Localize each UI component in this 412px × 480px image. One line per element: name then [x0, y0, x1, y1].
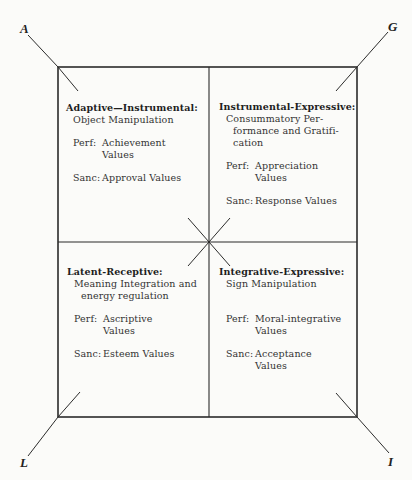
perf-value-line: Appreciation — [255, 160, 318, 172]
corner-label-g: G — [388, 19, 397, 35]
quadrant-title: Integrative-Expressive: — [219, 266, 344, 278]
sanc-label: Sanc: — [73, 172, 102, 184]
subtitle-line: Object Manipulation — [73, 114, 174, 125]
sanc-value-line: Values — [255, 360, 312, 372]
perf-row: Perf: Achievement Values — [66, 137, 198, 161]
sanc-row: Sanc: Approval Values — [66, 172, 198, 184]
sanc-value-line: Esteem Values — [103, 348, 175, 360]
quadrant-title: Latent-Receptive: — [67, 266, 197, 278]
perf-label: Perf: — [74, 313, 103, 337]
sanc-label: Sanc: — [226, 348, 255, 372]
subtitle-line: cation — [226, 137, 355, 149]
subtitle-line: Meaning Integration and — [74, 278, 197, 289]
sanc-value-line: Response Values — [255, 195, 337, 207]
quadrant-subtitle: Object Manipulation — [66, 114, 198, 126]
axis-a-inner — [58, 67, 78, 91]
axis-a-outer — [28, 35, 58, 67]
quadrant-title: Instrumental-Expressive: — [219, 101, 355, 113]
quadrant-latent-receptive: Latent-Receptive: Meaning Integration an… — [67, 266, 197, 360]
quadrant-integrative-expressive: Integrative-Expressive: Sign Manipulatio… — [219, 266, 344, 372]
axis-i-inner — [336, 393, 357, 417]
axis-l-outer — [28, 417, 58, 456]
subtitle-line: Consummatory Per- — [226, 113, 323, 124]
quadrant-instrumental-expressive: Instrumental-Expressive: Consummatory Pe… — [219, 101, 355, 207]
perf-label: Perf: — [226, 160, 255, 184]
corner-label-i: I — [388, 454, 393, 470]
perf-value-line: Values — [103, 325, 153, 337]
diagram-lines — [0, 0, 412, 480]
corner-label-a: A — [20, 21, 29, 37]
sanc-row: Sanc: Esteem Values — [67, 348, 197, 360]
perf-row: Perf: Appreciation Values — [219, 160, 355, 184]
perf-value-line: Ascriptive — [103, 313, 153, 325]
sanc-value-line: Approval Values — [102, 172, 181, 184]
quadrant-subtitle: Meaning Integration and energy regulatio… — [67, 278, 197, 302]
sanc-label: Sanc: — [74, 348, 103, 360]
sanc-value-line: Acceptance — [255, 348, 312, 360]
corner-label-l: L — [20, 455, 28, 471]
subtitle-line: formance and Gratifi- — [226, 125, 355, 137]
quadrant-subtitle: Sign Manipulation — [219, 278, 344, 290]
sanc-label: Sanc: — [226, 195, 255, 207]
axis-g-inner — [336, 67, 357, 91]
perf-value-line: Values — [255, 172, 318, 184]
perf-value-line: Values — [255, 325, 341, 337]
subtitle-line: energy regulation — [74, 290, 197, 302]
axis-i-outer — [357, 417, 389, 453]
perf-value-line: Moral-integrative — [255, 313, 341, 325]
perf-value-line: Values — [102, 149, 166, 161]
sanc-row: Sanc: Response Values — [219, 195, 355, 207]
quadrant-subtitle: Consummatory Per- formance and Gratifi- … — [219, 113, 355, 149]
sanc-row: Sanc: Acceptance Values — [219, 348, 344, 372]
perf-label: Perf: — [226, 313, 255, 337]
axis-g-outer — [357, 32, 388, 67]
quadrant-title: Adaptive—Instrumental: — [66, 102, 198, 114]
subtitle-line: Sign Manipulation — [226, 278, 317, 289]
quadrant-adaptive-instrumental: Adaptive—Instrumental: Object Manipulati… — [66, 102, 198, 184]
axis-l-inner — [58, 392, 80, 417]
perf-value-line: Achievement — [102, 137, 166, 149]
perf-row: Perf: Ascriptive Values — [67, 313, 197, 337]
perf-label: Perf: — [73, 137, 102, 161]
perf-row: Perf: Moral-integrative Values — [219, 313, 344, 337]
